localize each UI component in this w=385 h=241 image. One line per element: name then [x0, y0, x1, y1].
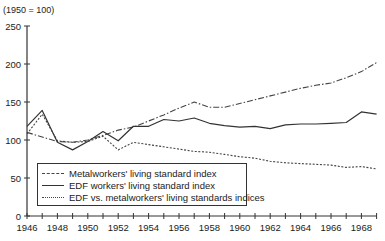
series-line-dotted — [27, 114, 377, 169]
solid-line-icon — [42, 185, 64, 186]
x-tick-label: 1956 — [168, 222, 189, 233]
y-tick-label: 100 — [5, 135, 21, 146]
dotted-line-icon — [42, 197, 64, 198]
series-line-dash-dot — [27, 63, 377, 143]
x-tick-label: 1950 — [77, 222, 98, 233]
x-tick-label: 1954 — [138, 222, 159, 233]
x-tick-label: 1960 — [229, 222, 250, 233]
y-tick-label: 0 — [16, 211, 21, 222]
x-tick-label: 1946 — [16, 222, 37, 233]
x-tick-label: 1958 — [199, 222, 220, 233]
y-tick-label: 250 — [5, 21, 21, 32]
y-tick-label: 150 — [5, 97, 21, 108]
y-tick-label: 200 — [5, 59, 21, 70]
series-lines — [27, 63, 377, 169]
y-axis-unit-label: (1950 = 100) — [3, 5, 54, 15]
x-tick-label: 1966 — [320, 222, 341, 233]
legend-label: Metalworkers' living standard index — [69, 168, 217, 179]
legend-label: EDF workers' living standard index — [69, 180, 215, 191]
x-tick-label: 1962 — [260, 222, 281, 233]
legend: Metalworkers' living standard index EDF … — [37, 163, 247, 206]
legend-label: EDF vs. metalworkers' living standards i… — [69, 192, 265, 203]
x-tick-label: 1964 — [290, 222, 311, 233]
x-tick-label: 1968 — [351, 222, 372, 233]
x-tick-label: 1952 — [108, 222, 129, 233]
legend-item-ratio: EDF vs. metalworkers' living standards i… — [42, 191, 265, 204]
x-tick-label: 1948 — [47, 222, 68, 233]
series-line-solid — [27, 110, 377, 149]
dash-dot-line-icon — [42, 173, 64, 174]
y-tick-label: 50 — [10, 173, 21, 184]
